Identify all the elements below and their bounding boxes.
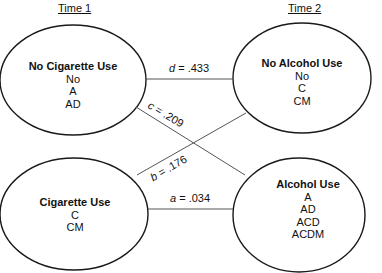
node-item: AD bbox=[13, 98, 133, 111]
node-item: C bbox=[242, 82, 362, 95]
node-no-cigarette-use: No Cigarette Use No A AD bbox=[13, 60, 133, 110]
edge-label-a: a = .034 bbox=[170, 192, 210, 204]
node-title: No Alcohol Use bbox=[242, 57, 362, 70]
node-item: No bbox=[242, 70, 362, 83]
edge-line-c bbox=[136, 107, 245, 175]
edge-value: = .034 bbox=[176, 192, 210, 204]
node-item: ACD bbox=[248, 216, 368, 229]
time1-header: Time 1 bbox=[58, 2, 91, 15]
node-title: Cigarette Use bbox=[15, 196, 135, 209]
node-item: ACDM bbox=[248, 228, 368, 241]
time2-header: Time 2 bbox=[288, 2, 321, 15]
node-title: Alcohol Use bbox=[248, 178, 368, 191]
edge-value: = .433 bbox=[175, 62, 209, 74]
node-item: No bbox=[13, 73, 133, 86]
node-cigarette-use: Cigarette Use C CM bbox=[15, 196, 135, 234]
node-item: A bbox=[13, 85, 133, 98]
node-alcohol-use: Alcohol Use A AD ACD ACDM bbox=[248, 178, 368, 241]
node-title: No Cigarette Use bbox=[13, 60, 133, 73]
node-item: CM bbox=[242, 95, 362, 108]
edge-label-d: d = .433 bbox=[169, 62, 209, 74]
node-item: CM bbox=[15, 221, 135, 234]
node-item: A bbox=[248, 191, 368, 204]
node-item: C bbox=[15, 209, 135, 222]
node-item: AD bbox=[248, 203, 368, 216]
node-no-alcohol-use: No Alcohol Use No C CM bbox=[242, 57, 362, 107]
